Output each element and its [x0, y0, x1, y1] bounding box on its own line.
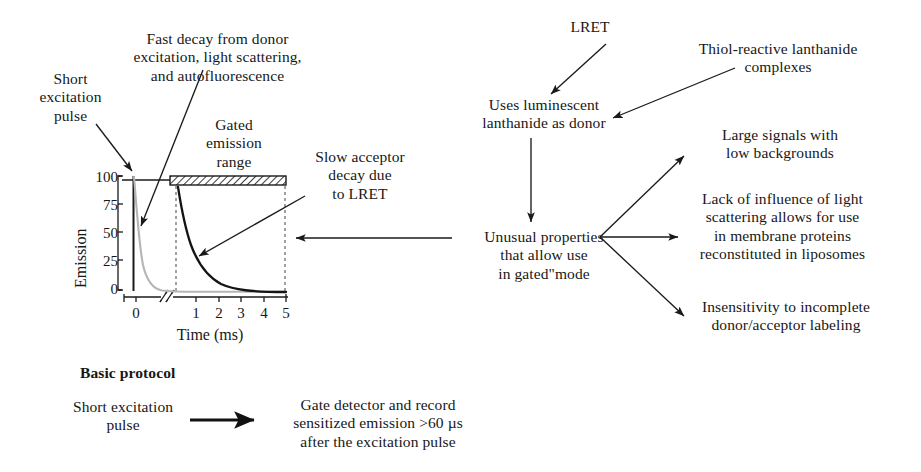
xtick-label-1: 1	[188, 305, 204, 322]
x-axis-spine	[124, 290, 288, 302]
xtick-label-3: 3	[233, 305, 249, 322]
flow-node-unusual-properties: Unusual properties that allow use in gat…	[455, 228, 633, 283]
flow-node-insensitivity: Insensitivity to incomplete donor/accept…	[686, 298, 886, 335]
fast-decay-curve	[134, 177, 286, 292]
annotation-short-excitation-pulse: Short excitation pulse	[18, 70, 123, 125]
protocol-heading: Basic protocol	[80, 364, 220, 382]
protocol-step-2: Gate detector and record sensitized emis…	[272, 396, 484, 451]
arrow-lret-to-uses-luminescent	[551, 44, 606, 94]
flow-node-large-signals: Large signals with low backgrounds	[690, 126, 870, 163]
annotation-fast-decay: Fast decay from donor excitation, light …	[110, 30, 325, 85]
flow-node-lret: LRET	[558, 18, 622, 36]
x-axis-break-icon	[160, 290, 174, 302]
arrow-unusual-to-large-signals	[600, 156, 684, 237]
xtick-label-4: 4	[256, 305, 272, 322]
flow-node-lack-of-influence: Lack of influence of light scattering al…	[680, 190, 885, 263]
lret-figure: Short excitation pulse Fast decay from d…	[0, 0, 921, 472]
ytick-label-75: 75	[84, 197, 118, 214]
x-axis-title: Time (ms)	[150, 326, 270, 344]
arrow-slow-acceptor-decay	[199, 196, 305, 256]
xtick-label-2: 2	[211, 305, 227, 322]
xtick-label-0: 0	[128, 305, 144, 322]
y-axis-title: Emission	[72, 228, 90, 288]
arrow-short-excitation-pulse	[96, 124, 132, 171]
xtick-label-5: 5	[278, 305, 294, 322]
y-axis-spine	[118, 176, 123, 290]
ytick-label-100: 100	[84, 169, 118, 186]
gated-emission-range-bar	[170, 176, 286, 185]
annotation-gated-emission-range: Gated emission range	[188, 116, 280, 171]
protocol-step-1: Short excitation pulse	[48, 398, 198, 435]
slow-acceptor-decay-curve	[178, 187, 286, 292]
flow-node-thiol-reactive-complexes: Thiol-reactive lanthanide complexes	[678, 40, 878, 77]
annotation-slow-acceptor-decay: Slow acceptor decay due to LRET	[300, 148, 420, 203]
flow-node-uses-luminescent-lanthanide: Uses luminescent lanthanide as donor	[455, 96, 633, 133]
